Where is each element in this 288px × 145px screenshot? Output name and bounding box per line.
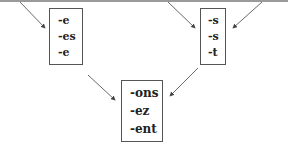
- ending-item: -ent: [130, 120, 162, 138]
- ending-item: -ez: [130, 102, 162, 120]
- arrow-topright-to-right-box: [233, 2, 262, 28]
- ending-box-bottom: -ons -ez -ent: [121, 80, 163, 142]
- ending-item: -ons: [130, 84, 162, 102]
- arrow-right-box-to-bottom-box: [170, 68, 198, 96]
- ending-item: -s: [208, 13, 225, 29]
- ending-item: -es: [58, 29, 82, 45]
- ending-item: -s: [208, 29, 225, 45]
- ending-item: -e: [58, 45, 82, 61]
- ending-box-right: -s -s -t: [200, 8, 226, 65]
- ending-item: -e: [58, 13, 82, 29]
- ending-box-left: -e -es -e: [49, 8, 83, 65]
- arrow-left-box-to-bottom-box: [88, 75, 115, 100]
- arrow-topmid-to-right-box: [168, 2, 195, 28]
- ending-item: -t: [208, 45, 225, 61]
- arrow-topleft-to-left-box: [20, 2, 45, 28]
